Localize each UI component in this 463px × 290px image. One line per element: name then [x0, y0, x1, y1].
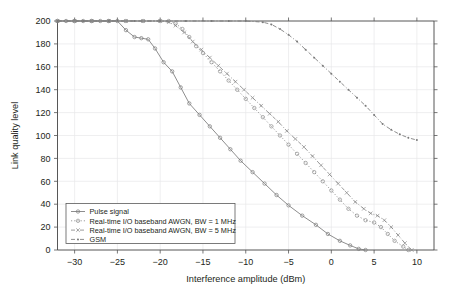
- data-point: [373, 114, 375, 116]
- data-point: [355, 214, 358, 217]
- data-point: [270, 23, 272, 25]
- data-point: [347, 89, 349, 91]
- x-tick-label: 0: [329, 257, 334, 267]
- x-tick-label: 10: [412, 257, 422, 267]
- data-point: [338, 198, 341, 201]
- x-tick-label: −30: [67, 257, 82, 267]
- x-tick-label: −20: [153, 257, 168, 267]
- line-chart: 020406080100120140160180200−30−25−20−15−…: [0, 0, 463, 290]
- x-tick-label: 5: [372, 257, 377, 267]
- data-point: [262, 21, 264, 23]
- y-tick-label: 60: [40, 177, 50, 187]
- data-point: [304, 161, 307, 164]
- data-point: [382, 123, 384, 125]
- y-tick-label: 80: [40, 154, 50, 164]
- y-tick-label: 20: [40, 222, 50, 232]
- data-point: [211, 20, 213, 22]
- legend-label: Real-time I/O baseband AWGN, BW = 1 MHz: [90, 217, 237, 226]
- data-point: [279, 28, 281, 30]
- data-point: [407, 137, 409, 139]
- data-point: [288, 34, 290, 36]
- data-point: [210, 61, 213, 64]
- y-axis-title: Link quality level: [10, 102, 20, 169]
- data-point: [305, 49, 307, 51]
- y-tick-label: 40: [40, 199, 50, 209]
- y-tick-label: 180: [35, 39, 50, 49]
- series-line: [58, 21, 417, 140]
- data-point: [228, 20, 230, 22]
- data-point: [57, 20, 59, 22]
- data-point: [295, 152, 298, 155]
- y-tick-label: 160: [35, 62, 50, 72]
- data-point: [159, 20, 161, 22]
- data-point: [313, 57, 315, 59]
- chart-figure: 020406080100120140160180200−30−25−20−15−…: [0, 0, 463, 290]
- data-point: [82, 20, 84, 22]
- legend-label: Pulse signal: [90, 207, 130, 216]
- x-axis-title: Interference amplitude (dBm): [186, 274, 305, 284]
- chart-legend: Pulse signalReal-time I/O baseband AWGN,…: [66, 204, 236, 245]
- y-tick-label: 0: [45, 245, 50, 255]
- data-point: [108, 20, 110, 22]
- x-tick-label: −15: [195, 257, 210, 267]
- series-3: [57, 20, 418, 141]
- data-point: [330, 73, 332, 75]
- y-tick-label: 140: [35, 85, 50, 95]
- x-tick-label: −10: [238, 257, 253, 267]
- data-point: [296, 41, 298, 43]
- data-point: [339, 81, 341, 83]
- data-point: [313, 170, 316, 173]
- x-tick-label: −25: [110, 257, 125, 267]
- data-point: [365, 105, 367, 107]
- x-tick-label: −5: [283, 257, 293, 267]
- data-point: [356, 97, 358, 99]
- data-point: [416, 139, 418, 141]
- y-tick-label: 100: [35, 131, 50, 141]
- data-point: [227, 79, 230, 82]
- data-point: [390, 129, 392, 131]
- data-point: [399, 133, 401, 135]
- data-point: [245, 20, 247, 22]
- data-point: [322, 65, 324, 67]
- y-tick-label: 120: [35, 108, 50, 118]
- data-point: [185, 20, 187, 22]
- data-point: [401, 245, 404, 248]
- legend-label: Real-time I/O baseband AWGN, BW = 5 MHz: [90, 226, 237, 235]
- data-point: [218, 70, 221, 73]
- data-point: [134, 20, 136, 22]
- legend-label: GSM: [90, 235, 107, 244]
- data-point: [77, 238, 79, 240]
- y-tick-label: 200: [35, 16, 50, 26]
